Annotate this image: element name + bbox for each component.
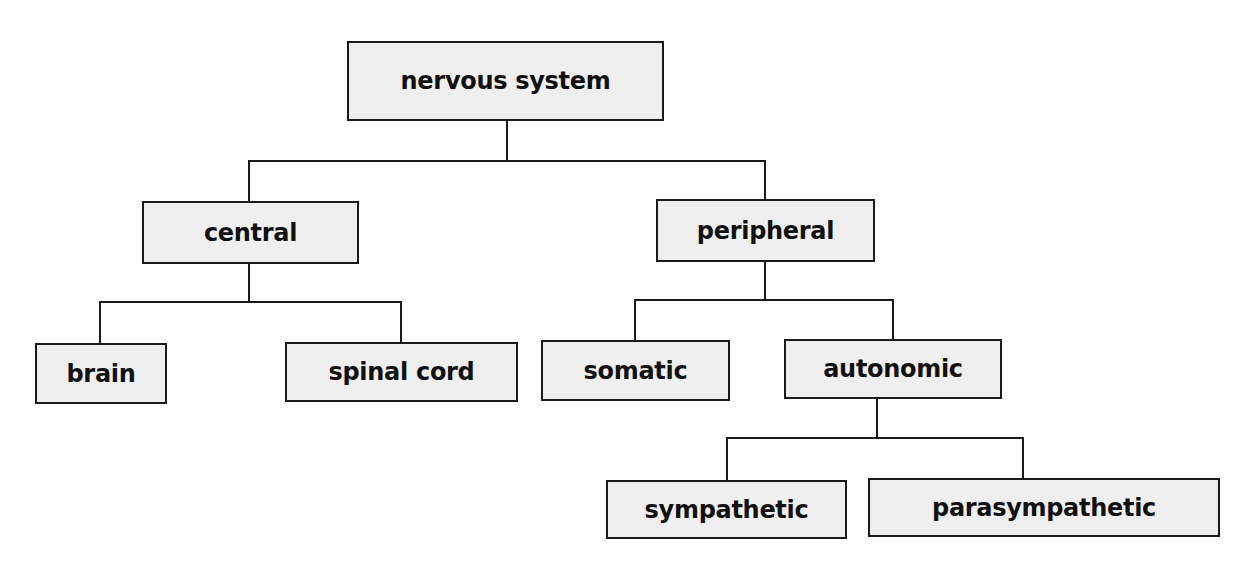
node-label: somatic [584, 357, 688, 385]
node-brain: brain [35, 343, 167, 404]
node-label: peripheral [697, 217, 834, 245]
connector-to-spinal-cord [400, 301, 402, 343]
connector-autonomic-stem [876, 398, 878, 439]
node-label: parasympathetic [932, 494, 1156, 522]
node-autonomic: autonomic [784, 339, 1002, 399]
connector-central-stem [248, 263, 250, 303]
node-label: sympathetic [645, 496, 809, 524]
node-peripheral: peripheral [656, 199, 875, 262]
node-label: brain [66, 360, 135, 388]
connector-peripheral-stem [764, 261, 766, 301]
node-label: autonomic [823, 355, 963, 383]
connector-to-sympathetic [726, 437, 728, 481]
connector-to-autonomic [892, 299, 894, 340]
node-parasympathetic: parasympathetic [868, 478, 1220, 537]
connector-to-central [248, 160, 250, 202]
node-label: central [204, 219, 297, 247]
connector-to-parasympathetic [1022, 437, 1024, 479]
node-spinal-cord: spinal cord [285, 342, 518, 402]
node-central: central [142, 201, 359, 264]
connector-to-brain [99, 301, 101, 344]
connector-root-bar [248, 160, 766, 162]
node-nervous-system: nervous system [347, 41, 664, 121]
connector-peripheral-bar [634, 299, 894, 301]
connector-autonomic-bar [726, 437, 1024, 439]
connector-central-bar [99, 301, 402, 303]
connector-to-peripheral [764, 160, 766, 200]
node-label: nervous system [401, 67, 611, 95]
node-label: spinal cord [329, 358, 475, 386]
connector-to-somatic [634, 299, 636, 341]
node-somatic: somatic [541, 340, 730, 401]
node-sympathetic: sympathetic [606, 480, 847, 539]
nervous-system-diagram: nervous system central peripheral brain … [0, 0, 1256, 569]
connector-root-stem [506, 120, 508, 162]
